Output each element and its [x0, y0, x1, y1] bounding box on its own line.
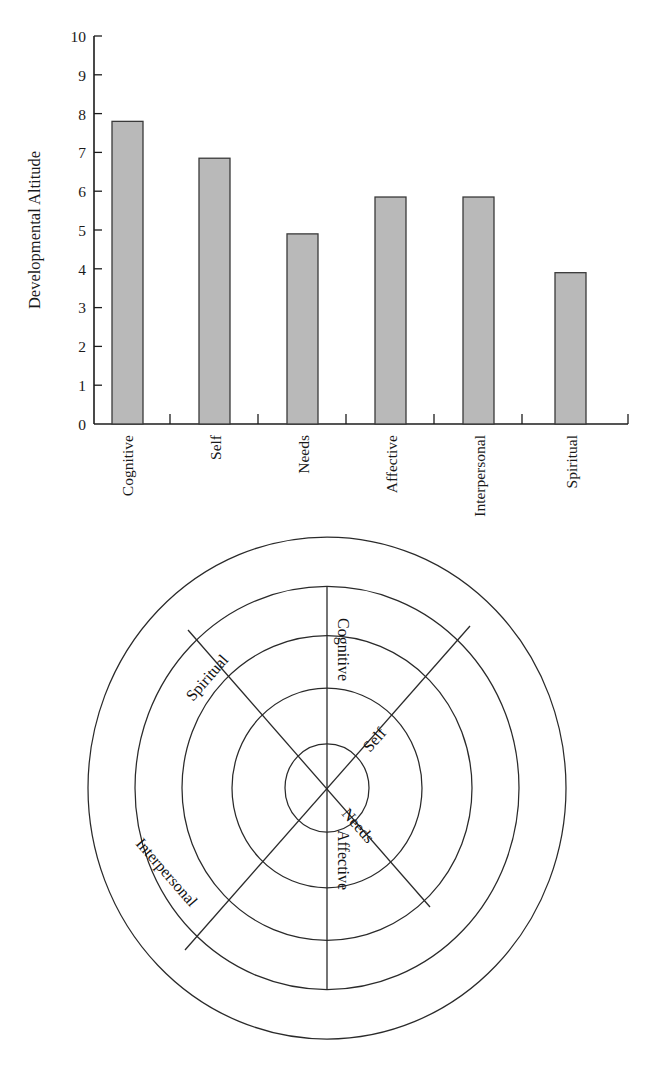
x-label-needs: Needs — [295, 435, 312, 474]
concentric-circles-panel: Cognitive Self Needs Affective Interpers… — [0, 532, 652, 1067]
ring-label-affective: Affective — [335, 830, 352, 890]
bar-affective[interactable] — [375, 197, 406, 424]
y-tick-label-4: 4 — [78, 261, 86, 278]
bar-chart-panel: 10 9 8 7 6 5 4 3 2 1 0 — [0, 0, 652, 532]
y-tick-label-7: 7 — [78, 144, 86, 161]
spoke-labels: Cognitive Self Needs Affective Interpers… — [132, 618, 390, 911]
y-tick-label-1: 1 — [78, 377, 86, 394]
y-tick-label-6: 6 — [78, 183, 86, 200]
x-label-self: Self — [207, 434, 224, 460]
y-tick-labels: 10 9 8 7 6 5 4 3 2 1 0 — [71, 28, 87, 433]
y-tick-label-10: 10 — [71, 28, 87, 45]
bar-self[interactable] — [199, 158, 230, 424]
y-tick-label-5: 5 — [78, 222, 86, 239]
spoke-diagonal-spiritual-needs — [188, 630, 430, 907]
y-axis-title: Developmental Altitude — [25, 151, 44, 309]
x-category-labels: Cognitive Self Needs Affective Interpers… — [119, 434, 580, 517]
bar-needs[interactable] — [287, 234, 318, 424]
concentric-circles-svg: Cognitive Self Needs Affective Interpers… — [0, 532, 652, 1067]
bar-cognitive[interactable] — [112, 121, 143, 424]
ring-label-cognitive: Cognitive — [334, 618, 352, 681]
bar-interpersonal[interactable] — [463, 197, 494, 424]
y-axis-ticks — [94, 36, 102, 385]
bar-chart-svg: 10 9 8 7 6 5 4 3 2 1 0 — [0, 0, 652, 532]
x-label-spiritual: Spiritual — [563, 435, 580, 488]
x-label-interpersonal: Interpersonal — [471, 435, 488, 517]
x-label-affective: Affective — [383, 435, 400, 493]
y-tick-label-8: 8 — [78, 106, 86, 123]
y-tick-label-2: 2 — [78, 338, 86, 355]
x-label-cognitive: Cognitive — [119, 435, 136, 496]
bar-spiritual[interactable] — [555, 273, 586, 424]
ring-label-spiritual: Spiritual — [182, 651, 232, 705]
y-tick-label-0: 0 — [78, 416, 86, 433]
y-tick-label-3: 3 — [78, 299, 86, 316]
ring-label-self: Self — [359, 724, 389, 755]
figure-root: 10 9 8 7 6 5 4 3 2 1 0 — [0, 0, 652, 1067]
bar-series — [112, 121, 586, 424]
y-tick-label-9: 9 — [78, 67, 86, 84]
